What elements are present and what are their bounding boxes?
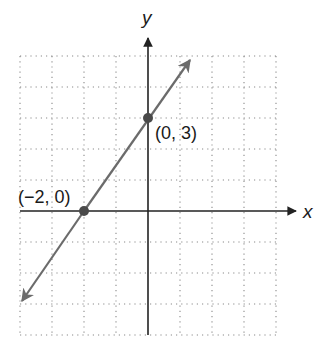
point-neg2-0 (79, 206, 89, 216)
plotted-line (22, 211, 84, 301)
point-label-neg2-0: (−2, 0) (18, 187, 71, 207)
coordinate-plane: x y (−2, 0) (0, 3) (0, 0, 327, 359)
point-0-3 (143, 113, 153, 123)
x-axis-label: x (302, 201, 314, 222)
y-axis-label: y (140, 7, 153, 28)
point-label-0-3: (0, 3) (155, 123, 197, 143)
